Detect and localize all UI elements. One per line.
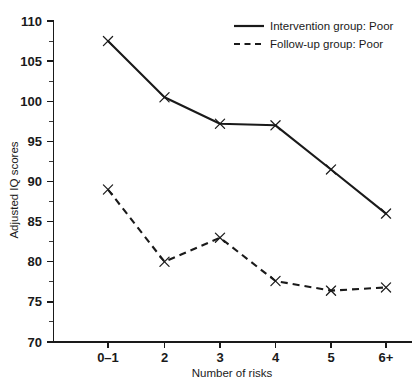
y-tick-label: 85 [28, 214, 42, 229]
x-axis-title: Number of risks [192, 367, 273, 379]
data-point-marker [160, 257, 169, 266]
x-tick-label: 3 [216, 350, 223, 365]
series-line-1 [108, 41, 386, 214]
y-axis-tick-labels: 707580859095100105110 [20, 14, 42, 350]
line-chart: 707580859095100105110 0–123456+ Number o… [0, 0, 419, 390]
y-tick-label: 75 [28, 294, 42, 309]
data-point-marker [103, 185, 112, 194]
legend-label: Intervention group: Poor [270, 20, 394, 32]
y-tick-label: 90 [28, 174, 42, 189]
x-tick-label: 5 [327, 350, 334, 365]
y-axis-title: Adjusted IQ scores [8, 141, 20, 238]
x-tick-label: 0–1 [97, 350, 119, 365]
x-axis-tick-labels: 0–123456+ [97, 350, 394, 365]
y-tick-label: 110 [21, 14, 42, 29]
data-point-marker [103, 36, 112, 45]
data-point-marker [215, 233, 224, 242]
chart-container: 707580859095100105110 0–123456+ Number o… [0, 0, 419, 390]
data-point-marker [326, 165, 335, 174]
data-point-marker [271, 276, 280, 285]
y-tick-label: 80 [28, 254, 42, 269]
series-plot-area [103, 36, 390, 295]
y-tick-label: 100 [20, 94, 42, 109]
chart-legend: Intervention group: PoorFollow-up group:… [234, 20, 394, 50]
data-point-marker [160, 93, 169, 102]
x-axis-ticks [108, 342, 386, 348]
legend-label: Follow-up group: Poor [270, 38, 383, 50]
x-tick-label: 4 [272, 350, 280, 365]
y-tick-label: 105 [20, 54, 42, 69]
data-point-marker [381, 209, 390, 218]
y-tick-label: 95 [28, 134, 42, 149]
x-tick-label: 2 [161, 350, 168, 365]
y-tick-label: 70 [28, 335, 42, 350]
x-tick-label: 6+ [379, 350, 394, 365]
y-axis-ticks [47, 21, 54, 342]
series-line-2 [108, 190, 386, 291]
